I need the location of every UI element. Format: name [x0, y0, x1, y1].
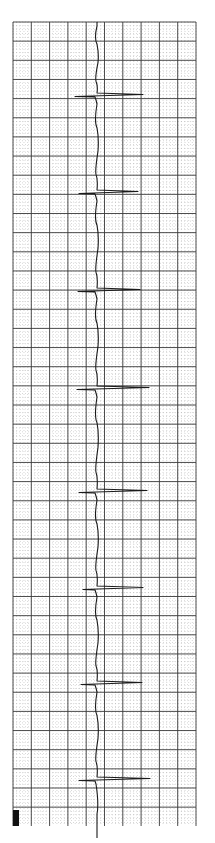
paper-background [0, 0, 215, 843]
calibration-marker [13, 810, 19, 826]
ecg-strip [0, 0, 215, 843]
